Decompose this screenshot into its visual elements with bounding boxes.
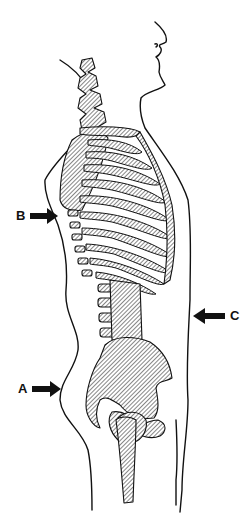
- label-a: A: [18, 381, 27, 396]
- arrow-a: [32, 381, 61, 397]
- clavicle: [80, 127, 140, 137]
- anatomy-figure: [0, 0, 252, 520]
- arrow-b: [30, 208, 58, 224]
- cervical-spine: [78, 58, 106, 130]
- arrow-c: [193, 308, 225, 324]
- femur: [116, 417, 136, 503]
- label-c: C: [230, 308, 239, 323]
- lumbar-spine: [110, 280, 142, 340]
- ear: [155, 44, 157, 47]
- label-b: B: [16, 208, 25, 223]
- inner-leg-line: [176, 420, 177, 505]
